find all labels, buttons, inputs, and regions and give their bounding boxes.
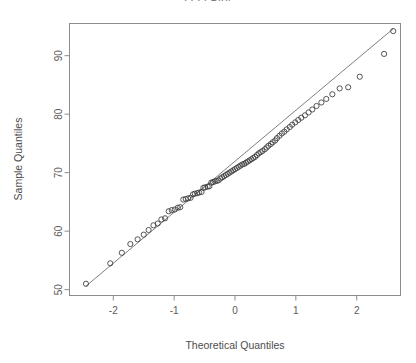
data-point <box>119 250 124 255</box>
y-axis-tick-labels: 5060708090 <box>53 50 64 296</box>
x-tick-label: -2 <box>109 305 118 316</box>
x-tick-label: 1 <box>293 305 299 316</box>
data-point <box>166 209 171 214</box>
qq-plot-canvas: -2-1012 5060708090 Theoretical Quantiles… <box>0 0 416 363</box>
y-tick-label: 70 <box>53 167 64 179</box>
y-axis-title: Sample Quantiles <box>12 118 24 201</box>
x-tick-label: 0 <box>232 305 238 316</box>
x-axis-tick-labels: -2-1012 <box>109 305 360 316</box>
reference-line <box>86 29 393 286</box>
data-point <box>337 86 342 91</box>
data-point <box>108 261 113 266</box>
data-point <box>135 237 140 242</box>
x-tick-label: 2 <box>354 305 360 316</box>
data-point <box>324 96 329 101</box>
y-tick-label: 80 <box>53 108 64 120</box>
data-point <box>128 241 133 246</box>
data-point <box>381 51 386 56</box>
data-point <box>306 110 311 115</box>
data-point <box>330 92 335 97</box>
data-point <box>346 85 351 90</box>
data-point <box>141 232 146 237</box>
x-axis-ticks <box>113 296 356 301</box>
qq-plot-figure: Q-Q Plot -2-1012 5060708090 Theoretical … <box>0 0 416 363</box>
data-point <box>357 74 362 79</box>
data-point <box>319 100 324 105</box>
data-point <box>146 227 151 232</box>
y-tick-label: 50 <box>53 284 64 296</box>
x-axis-title: Theoretical Quantiles <box>185 339 284 351</box>
data-point <box>314 103 319 108</box>
y-tick-label: 90 <box>53 50 64 62</box>
y-axis-ticks <box>65 56 70 290</box>
data-point <box>159 217 164 222</box>
x-tick-label: -1 <box>170 305 179 316</box>
y-tick-label: 60 <box>53 225 64 237</box>
